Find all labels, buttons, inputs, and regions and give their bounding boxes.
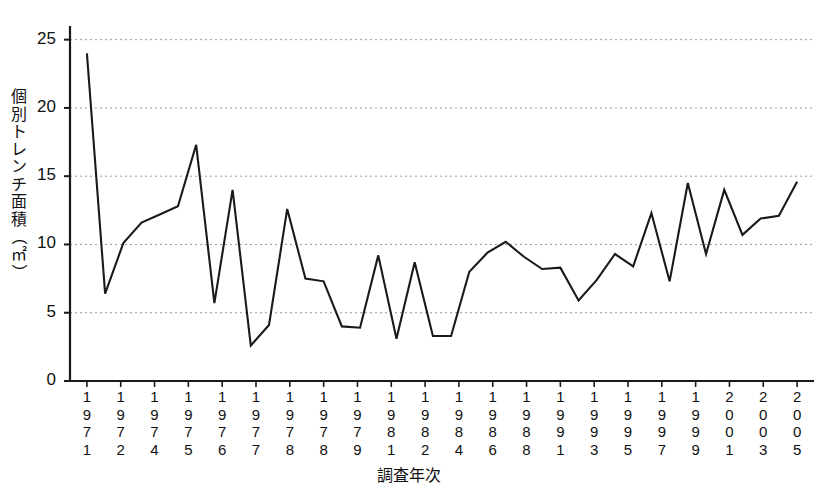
x-tick-digit: 5 (175, 441, 201, 459)
x-tick-label: 1991 (547, 388, 573, 458)
x-tick-digit: 7 (311, 423, 337, 441)
x-tick-digit: 9 (683, 406, 709, 424)
x-tick-digit: 7 (175, 423, 201, 441)
x-tick-digit: 1 (74, 441, 100, 459)
x-tick-digit: 1 (716, 441, 742, 459)
x-tick-digit: 0 (750, 423, 776, 441)
x-tick-digit: 9 (243, 406, 269, 424)
x-tick-digit: 9 (547, 423, 573, 441)
y-tick-label: 5 (16, 302, 56, 322)
x-tick-digit: 6 (209, 441, 235, 459)
x-tick-digit: 9 (311, 406, 337, 424)
x-tick-digit: 2 (716, 388, 742, 406)
x-tick-label: 2005 (784, 388, 810, 458)
x-tick-digit: 9 (581, 423, 607, 441)
x-tick-digit: 6 (480, 441, 506, 459)
x-tick-digit: 9 (344, 406, 370, 424)
x-tick-digit: 9 (344, 441, 370, 459)
x-tick-digit: 7 (649, 441, 675, 459)
x-tick-label: 1978 (311, 388, 337, 458)
x-tick-digit: 1 (243, 388, 269, 406)
y-tick-label: 20 (16, 97, 56, 117)
x-tick-digit: 9 (649, 406, 675, 424)
x-tick-digit: 3 (581, 441, 607, 459)
x-tick-digit: 9 (378, 406, 404, 424)
x-tick-label: 1977 (243, 388, 269, 458)
x-tick-digit: 9 (108, 406, 134, 424)
x-tick-digit: 9 (683, 441, 709, 459)
x-tick-digit: 9 (446, 406, 472, 424)
x-tick-digit: 7 (243, 441, 269, 459)
x-tick-digit: 8 (514, 423, 540, 441)
x-tick-digit: 9 (277, 406, 303, 424)
x-tick-digit: 1 (175, 388, 201, 406)
x-tick-digit: 1 (311, 388, 337, 406)
x-tick-digit: 9 (209, 406, 235, 424)
x-tick-digit: 1 (142, 388, 168, 406)
x-tick-label: 1995 (615, 388, 641, 458)
x-tick-digit: 3 (750, 441, 776, 459)
y-tick-label: 10 (16, 233, 56, 253)
y-tick-label: 0 (16, 370, 56, 390)
x-tick-digit: 1 (649, 388, 675, 406)
x-tick-digit: 8 (446, 423, 472, 441)
x-tick-digit: 0 (750, 406, 776, 424)
x-tick-digit: 1 (480, 388, 506, 406)
x-tick-digit: 1 (108, 388, 134, 406)
x-tick-digit: 0 (716, 406, 742, 424)
x-tick-label: 1986 (480, 388, 506, 458)
x-tick-label: 1975 (175, 388, 201, 458)
x-tick-label: 1984 (446, 388, 472, 458)
x-tick-label: 1976 (209, 388, 235, 458)
x-tick-digit: 9 (615, 406, 641, 424)
x-tick-digit: 9 (547, 406, 573, 424)
x-tick-digit: 1 (446, 388, 472, 406)
chart-figure: 個 別 ト レ ン チ 面 積 （ ㎡ ） 0510152025 1971197… (0, 0, 818, 494)
x-tick-digit: 0 (784, 406, 810, 424)
x-tick-digit: 8 (378, 423, 404, 441)
x-tick-digit: 1 (547, 388, 573, 406)
x-tick-digit: 1 (344, 388, 370, 406)
data-series-line (87, 53, 797, 345)
y-tick-label: 25 (16, 29, 56, 49)
x-tick-digit: 9 (74, 406, 100, 424)
x-tick-digit: 8 (311, 441, 337, 459)
x-tick-digit: 1 (378, 388, 404, 406)
x-tick-label: 1981 (378, 388, 404, 458)
x-tick-digit: 8 (412, 423, 438, 441)
x-tick-label: 1979 (344, 388, 370, 458)
x-tick-digit: 7 (277, 423, 303, 441)
x-tick-digit: 9 (412, 406, 438, 424)
x-tick-digit: 0 (784, 423, 810, 441)
x-tick-digit: 2 (412, 441, 438, 459)
x-tick-label: 1971 (74, 388, 100, 458)
x-tick-digit: 9 (615, 423, 641, 441)
x-tick-digit: 9 (480, 406, 506, 424)
x-tick-digit: 0 (716, 423, 742, 441)
x-tick-digit: 2 (784, 388, 810, 406)
x-tick-digit: 1 (277, 388, 303, 406)
x-tick-label: 1999 (683, 388, 709, 458)
x-tick-digit: 7 (344, 423, 370, 441)
x-tick-digit: 9 (142, 406, 168, 424)
x-tick-digit: 1 (547, 441, 573, 459)
x-tick-digit: 2 (750, 388, 776, 406)
x-tick-digit: 9 (175, 406, 201, 424)
x-tick-digit: 5 (784, 441, 810, 459)
x-tick-digit: 1 (378, 441, 404, 459)
x-tick-digit: 5 (615, 441, 641, 459)
x-tick-digit: 9 (683, 423, 709, 441)
x-tick-digit: 1 (581, 388, 607, 406)
x-tick-label: 1978 (277, 388, 303, 458)
x-tick-label: 1988 (514, 388, 540, 458)
x-tick-label: 1974 (142, 388, 168, 458)
x-tick-digit: 8 (514, 441, 540, 459)
x-tick-digit: 1 (74, 388, 100, 406)
x-tick-label: 1997 (649, 388, 675, 458)
x-tick-digit: 7 (74, 423, 100, 441)
x-tick-digit: 2 (108, 441, 134, 459)
x-tick-digit: 9 (649, 423, 675, 441)
x-tick-digit: 7 (209, 423, 235, 441)
gridlines (70, 40, 814, 313)
x-tick-label: 1972 (108, 388, 134, 458)
